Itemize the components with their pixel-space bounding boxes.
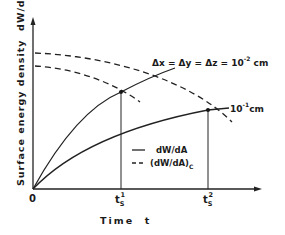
annotation-coarse: 10-1cm: [230, 101, 264, 114]
x-axis-arrow-icon: [254, 187, 262, 192]
energy-curve-fine: [33, 68, 175, 189]
legend-label-solid: dW/dA: [156, 145, 188, 155]
y-axis-label: Surface energy density dW/dA: [15, 0, 26, 186]
annotation-fine: Δx = Δy = Δz = 10-2 cm: [152, 55, 268, 68]
tick-ts2: tS2: [203, 191, 213, 208]
legend-label-dashed: (dW/dA)C: [150, 158, 194, 170]
origin-label: 0: [29, 193, 36, 204]
critical-curve-lower: [35, 66, 140, 102]
tick-ts1: tS1: [115, 191, 125, 208]
chart: Δx = Δy = Δz = 10-2 cm 10-1cm dW/dA (dW/…: [0, 0, 285, 235]
legend: dW/dA (dW/dA)C: [132, 145, 194, 170]
x-axis-label: Time t: [100, 215, 151, 226]
energy-curve-coarse: [33, 108, 229, 189]
y-axis-arrow-icon: [31, 17, 36, 25]
